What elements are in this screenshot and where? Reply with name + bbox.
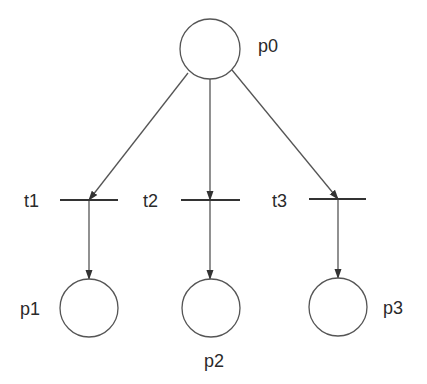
place-label-p2: p2 bbox=[204, 351, 224, 371]
transition-label-t1: t1 bbox=[24, 191, 39, 211]
arcs bbox=[89, 70, 338, 279]
place-p0 bbox=[180, 19, 240, 79]
transitions bbox=[60, 199, 366, 200]
arc-p0-to-t1-arrow-icon bbox=[89, 73, 188, 200]
petri-net-diagram: t1t2t3p0p1p2p3 bbox=[0, 0, 427, 384]
place-p2 bbox=[182, 279, 240, 337]
place-label-p1: p1 bbox=[20, 299, 40, 319]
place-label-p3: p3 bbox=[383, 298, 403, 318]
transition-label-t3: t3 bbox=[272, 191, 287, 211]
place-p1 bbox=[60, 279, 118, 337]
arc-p0-to-t3-arrow-icon bbox=[232, 70, 338, 199]
transition-label-t2: t2 bbox=[143, 191, 158, 211]
place-p3 bbox=[309, 278, 367, 336]
place-label-p0: p0 bbox=[258, 36, 278, 56]
